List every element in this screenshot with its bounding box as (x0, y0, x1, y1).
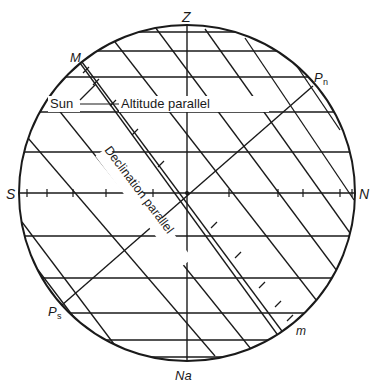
diagram-canvas: Z Na N S M m P n P s Sun Altitude parall… (0, 0, 374, 386)
center-point (185, 191, 189, 195)
svg-text:s: s (57, 311, 62, 321)
svg-text:P: P (48, 304, 57, 319)
celestial-sphere-diagram: Z Na N S M m P n P s Sun Altitude parall… (0, 0, 374, 386)
declination-tick (275, 301, 281, 307)
svg-text:P: P (314, 70, 323, 85)
south-label: S (6, 186, 16, 202)
declination-tick (287, 315, 293, 321)
altitude-parallel-label: Altitude parallel (121, 96, 210, 111)
south-pole-label: P s (48, 304, 62, 321)
declination-parallel-label: Declination parallel (102, 143, 177, 236)
north-pole-label: P n (314, 70, 328, 87)
svg-text:n: n (323, 77, 328, 87)
nadir-label: Na (175, 368, 192, 383)
north-label: N (359, 186, 370, 202)
declination-tick (211, 222, 217, 228)
declination-parallel-line (155, 27, 346, 283)
declination-tick (158, 161, 164, 167)
declination-parallel-line (115, 42, 324, 310)
declination-parallel-line (205, 29, 350, 233)
declination-tick (235, 252, 241, 258)
meridian-bottom-label: m (296, 324, 306, 338)
sun-leader-line (80, 84, 96, 100)
zenith-label: Z (181, 9, 191, 25)
declination-parallel-line (22, 222, 126, 360)
meridian-top-label: M (70, 50, 81, 65)
declination-tick (259, 282, 265, 288)
sun-label: Sun (50, 96, 73, 111)
